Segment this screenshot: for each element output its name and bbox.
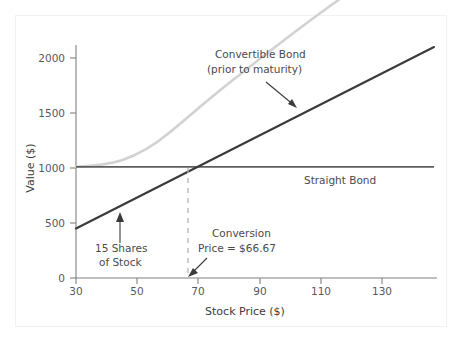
x-tick-label-110: 110 — [311, 285, 331, 297]
annotation-convertible-bond: Convertible Bond (prior to maturity) — [207, 48, 306, 108]
conversion-price-label-line2: Price = $66.67 — [198, 242, 276, 254]
convertible-bond-arrow-icon — [266, 82, 297, 108]
shares-label-line2: of Stock — [99, 256, 142, 268]
x-tick-label-50: 50 — [130, 285, 143, 297]
annotation-shares-of-stock: 15 Shares of Stock — [95, 212, 147, 268]
y-tick-label-500: 500 — [45, 217, 65, 229]
y-axis-title: Value ($) — [24, 143, 37, 192]
y-tick-label-1500: 1500 — [38, 107, 65, 119]
conversion-price-arrow-icon — [188, 258, 207, 277]
convertible-bond-chart: 0 500 1000 1500 2000 30 50 70 90 110 130… — [0, 0, 465, 342]
conversion-price-label-line1: Conversion — [212, 227, 271, 239]
shares-label-line1: 15 Shares — [95, 242, 147, 254]
y-tick-labels: 0 500 1000 1500 2000 — [38, 52, 65, 284]
convertible-bond-label-line1: Convertible Bond — [215, 48, 306, 60]
x-tick-label-130: 130 — [372, 285, 392, 297]
series-convertible-bond-curve — [76, 0, 340, 167]
x-tick-label-70: 70 — [191, 285, 204, 297]
y-tick-label-0: 0 — [58, 272, 65, 284]
annotation-conversion-price: Conversion Price = $66.67 — [188, 227, 276, 277]
x-tick-labels: 30 50 70 90 110 130 — [69, 285, 392, 297]
shares-arrow-icon — [116, 212, 124, 243]
straight-bond-label: Straight Bond — [304, 174, 376, 186]
figure-root: 0 500 1000 1500 2000 30 50 70 90 110 130… — [0, 0, 465, 342]
y-tick-label-1000: 1000 — [38, 162, 65, 174]
y-tick-label-2000: 2000 — [38, 52, 65, 64]
x-tick-label-30: 30 — [69, 285, 82, 297]
convertible-bond-label-line2: (prior to maturity) — [207, 63, 302, 75]
x-tick-label-90: 90 — [253, 285, 266, 297]
x-axis-title: Stock Price ($) — [205, 305, 285, 318]
